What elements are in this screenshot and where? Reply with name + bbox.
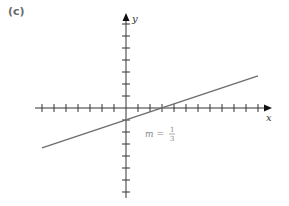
svg-text:3: 3: [170, 135, 174, 143]
y-axis-label: y: [131, 13, 138, 24]
svg-text:1: 1: [170, 126, 174, 134]
x-axis-label: x: [266, 112, 272, 123]
slope-annotation: m = 1 3: [145, 126, 175, 143]
y-axis-arrow-icon: [123, 13, 130, 21]
x-axis-arrow-icon: [264, 105, 272, 112]
coordinate-plot: y x m = 1 3: [0, 0, 289, 206]
svg-text:m =: m =: [145, 129, 164, 139]
